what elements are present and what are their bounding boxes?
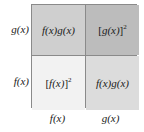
cell-top-right-base: g(x) bbox=[102, 24, 120, 36]
cell-top-right-exponent: 2 bbox=[123, 23, 127, 31]
area-model-figure: g(x) f(x) f(x)g(x) [g(x)]2 [f(x)]2 f(x)g… bbox=[0, 0, 144, 132]
cell-top-left-expression: f(x)g(x) bbox=[42, 24, 75, 36]
cell-top-left: f(x)g(x) bbox=[32, 5, 85, 55]
cell-bottom-left-base: f(x) bbox=[49, 77, 64, 89]
cell-bottom-right: f(x)g(x) bbox=[86, 56, 139, 110]
cell-bottom-right-base: f(x)g(x) bbox=[96, 77, 129, 89]
grid-container: f(x)g(x) [g(x)]2 [f(x)]2 f(x)g(x) bbox=[31, 4, 137, 108]
cell-bottom-right-expression: f(x)g(x) bbox=[96, 77, 129, 89]
cell-bottom-left-expression: [f(x)]2 bbox=[45, 77, 71, 89]
cell-bottom-left-exponent: 2 bbox=[68, 76, 72, 84]
row-label-f: f(x) bbox=[0, 75, 29, 87]
column-label-f: f(x) bbox=[31, 112, 84, 124]
row-label-g: g(x) bbox=[0, 23, 29, 35]
cell-top-left-base: f(x)g(x) bbox=[42, 24, 75, 36]
column-label-g: g(x) bbox=[84, 112, 137, 124]
area-model-grid: f(x)g(x) [g(x)]2 [f(x)]2 f(x)g(x) bbox=[31, 4, 137, 108]
cell-top-right: [g(x)]2 bbox=[86, 5, 139, 55]
cell-bottom-left: [f(x)]2 bbox=[32, 56, 85, 110]
cell-top-right-expression: [g(x)]2 bbox=[98, 24, 127, 36]
